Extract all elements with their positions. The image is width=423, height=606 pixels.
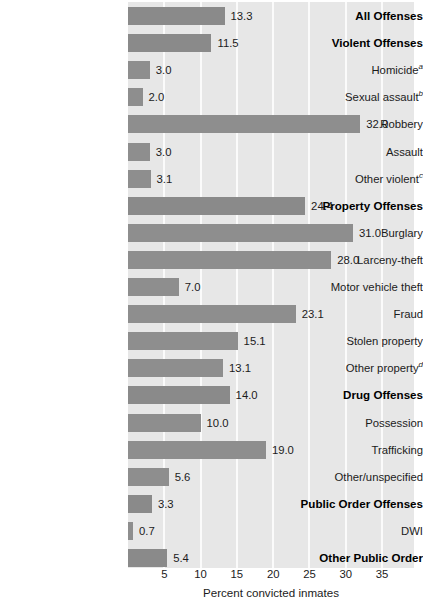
bar[interactable] (128, 522, 133, 540)
bar[interactable] (128, 468, 169, 486)
bar-row[interactable]: DWI0.7 (0, 517, 423, 545)
bar-value-label: 19.0 (272, 436, 294, 464)
x-tick-30: 30 (339, 568, 352, 580)
bar-label: Violent Offenses (299, 29, 423, 57)
x-tick-20: 20 (267, 568, 280, 580)
bar[interactable] (128, 441, 266, 459)
bar-value-label: 3.0 (156, 56, 172, 84)
bar-row[interactable]: Stolen property15.1 (0, 327, 423, 355)
bar-label: All Offenses (299, 2, 423, 30)
bar-value-label: 10.0 (207, 409, 229, 437)
bar-row[interactable]: Burglary31.0 (0, 219, 423, 247)
bar-value-label: 11.5 (217, 29, 238, 57)
bar-row[interactable]: Larceny-theft28.0 (0, 246, 423, 274)
bar[interactable] (128, 332, 238, 350)
bar-value-label: 15.1 (244, 327, 266, 355)
bar-label: Other violentc (299, 165, 423, 193)
bar[interactable] (128, 278, 179, 296)
bar-label: DWI (299, 517, 423, 545)
bar-value-label: 3.3 (158, 490, 174, 518)
bar-value-label: 24.4 (311, 192, 333, 220)
bar[interactable] (128, 251, 331, 269)
bar-label: Possession (299, 409, 423, 437)
bar-label: Homicidea (299, 56, 423, 84)
bar-row[interactable]: Motor vehicle theft7.0 (0, 273, 423, 301)
bar[interactable] (128, 386, 230, 404)
bar-label: Motor vehicle theft (299, 273, 423, 301)
bar-row[interactable]: Homicidea3.0 (0, 56, 423, 84)
bar-row[interactable]: Fraud23.1 (0, 300, 423, 328)
bar-value-label: 23.1 (302, 300, 324, 328)
bar-row[interactable]: Assault3.0 (0, 138, 423, 166)
x-axis: 5101520253035 Percent convicted inmates (0, 568, 423, 606)
bar-label: Other/unspecified (299, 463, 423, 491)
bar-row[interactable]: Other violentc3.1 (0, 165, 423, 193)
bar-value-label: 5.6 (175, 463, 191, 491)
footnote-marker: a (419, 62, 423, 71)
bar[interactable] (128, 224, 353, 242)
footnote-marker: d (419, 361, 423, 370)
bar-value-label: 13.3 (231, 2, 253, 30)
bar-label: Drug Offenses (299, 381, 423, 409)
bar-label: Other propertyd (299, 354, 423, 382)
bar-row[interactable]: Possession10.0 (0, 409, 423, 437)
bar[interactable] (128, 143, 150, 161)
bar-row[interactable]: Drug Offenses14.0 (0, 381, 423, 409)
bar-row[interactable]: Violent Offenses11.5 (0, 29, 423, 57)
bar-value-label: 3.0 (156, 138, 172, 166)
bar[interactable] (128, 305, 296, 323)
x-tick-5: 5 (161, 568, 167, 580)
bar[interactable] (128, 170, 151, 188)
x-tick-15: 15 (231, 568, 244, 580)
bar-value-label: 32.0 (366, 110, 388, 138)
bar-chart: All Offenses13.3Violent Offenses11.5Homi… (0, 0, 423, 606)
bar[interactable] (128, 495, 152, 513)
bar-row[interactable]: All Offenses13.3 (0, 2, 423, 30)
bar-row[interactable]: Public Order Offenses3.3 (0, 490, 423, 518)
bar-label: Stolen property (299, 327, 423, 355)
bar-label: Trafficking (299, 436, 423, 464)
bar[interactable] (128, 414, 201, 432)
bar-row[interactable]: Trafficking19.0 (0, 436, 423, 464)
bar[interactable] (128, 115, 360, 133)
bar-row[interactable]: Other/unspecified5.6 (0, 463, 423, 491)
bar-value-label: 0.7 (139, 517, 155, 545)
bar-value-label: 13.1 (229, 354, 251, 382)
bar[interactable] (128, 88, 143, 106)
bar-value-label: 14.0 (236, 381, 258, 409)
bar-value-label: 31.0 (359, 219, 381, 247)
bar-value-label: 3.1 (157, 165, 173, 193)
bar-row[interactable]: Sexual assaultb2.0 (0, 83, 423, 111)
bar[interactable] (128, 549, 167, 567)
x-axis-title: Percent convicted inmates (128, 586, 414, 599)
bar-value-label: 7.0 (185, 273, 201, 301)
x-tick-25: 25 (303, 568, 316, 580)
bar-row[interactable]: Property Offenses24.4 (0, 192, 423, 220)
bar-value-label: 28.0 (337, 246, 359, 274)
bar[interactable] (128, 7, 225, 25)
footnote-marker: c (419, 171, 423, 180)
bar-row[interactable]: Other propertyd13.1 (0, 354, 423, 382)
bar-label: Assault (299, 138, 423, 166)
bar[interactable] (128, 359, 223, 377)
bar[interactable] (128, 34, 211, 52)
bar-row[interactable]: Robbery32.0 (0, 110, 423, 138)
bar-label: Public Order Offenses (299, 490, 423, 518)
x-tick-10: 10 (194, 568, 207, 580)
x-tick-35: 35 (376, 568, 389, 580)
bar-value-label: 2.0 (149, 83, 165, 111)
bar[interactable] (128, 197, 305, 215)
bar-label: Sexual assaultb (299, 83, 423, 111)
bar[interactable] (128, 61, 150, 79)
footnote-marker: b (419, 90, 423, 99)
